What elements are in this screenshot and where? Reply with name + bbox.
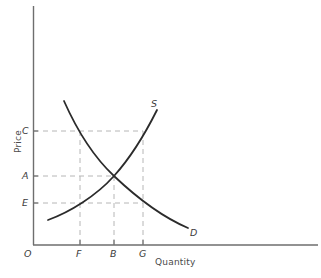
origin-label: O	[24, 249, 31, 259]
x-tick-label-f: F	[76, 249, 81, 259]
y-tick-label-c: C	[22, 126, 29, 136]
x-tick-label-b: B	[110, 249, 117, 259]
x-axis-title: Quantity	[155, 258, 196, 267]
supply-curve-label: S	[151, 99, 157, 109]
demand-curve	[64, 101, 188, 228]
x-tick-label-g: G	[139, 249, 146, 259]
demand-curve-label: D	[190, 228, 197, 238]
y-tick-label-a: A	[22, 171, 29, 181]
supply-demand-chart: Price Quantity O C A E F B G S D	[0, 0, 321, 278]
chart-canvas	[0, 0, 321, 278]
y-tick-label-e: E	[22, 198, 28, 208]
